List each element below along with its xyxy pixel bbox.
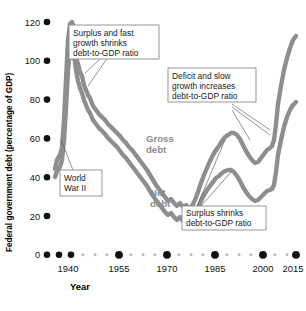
- y-tick-label: 60: [30, 134, 40, 144]
- series-label-net-debt-line2: debt: [150, 198, 171, 209]
- annotation-line-1: World: [64, 173, 86, 183]
- y-tick-dot: [44, 213, 51, 220]
- y-tick-label: 40: [30, 173, 40, 183]
- y-tick-dot: [44, 135, 51, 142]
- x-tick-label: 2015: [283, 263, 304, 274]
- series-label-gross-debt: Gross debt: [146, 133, 174, 155]
- series-label-gross-debt-line2: debt: [146, 144, 167, 155]
- y-tick-dot: [44, 252, 51, 259]
- y-tick-label: 100: [25, 56, 40, 66]
- annotation-deficit-slow-growth: Deficit and slow growth increases debt-t…: [168, 68, 270, 140]
- annotation-surplus-shrinks: Surplus shrinks debt-to-GDP ratio: [182, 140, 266, 230]
- annotation-line-2: growth shrinks: [73, 38, 127, 48]
- y-tick-dot: [44, 96, 51, 103]
- annotation-line-1: Deficit and slow: [172, 71, 232, 81]
- annotation-line-1: Surplus and fast: [73, 28, 134, 38]
- y-tick-dot: [44, 19, 51, 26]
- y-tick-label: 0: [35, 250, 40, 260]
- x-axis-dot-rule: [56, 251, 300, 259]
- x-tick-label: 1970: [157, 263, 178, 274]
- y-tick-dot: [44, 58, 51, 65]
- annotation-line-2: debt-to-GDP ratio: [186, 218, 252, 228]
- annotation-line-2: War II: [64, 183, 86, 193]
- y-tick-label: 120: [25, 18, 40, 28]
- y-tick-label: 20: [30, 212, 40, 222]
- series-label-gross-debt-line1: Gross: [146, 133, 174, 144]
- annotation-line-3: debt-to-GDP ratio: [73, 48, 139, 58]
- x-tick-label: 1985: [205, 263, 226, 274]
- annotation-world-war-two: World War II: [60, 140, 102, 196]
- x-tick-label: 1955: [109, 263, 130, 274]
- chart-canvas: Federal government debt (percentage of G…: [0, 0, 306, 311]
- y-axis-title: Federal government debt (percentage of G…: [5, 72, 14, 252]
- x-axis-title: Year: [70, 281, 90, 292]
- series-label-net-debt-line1: Net: [150, 187, 166, 198]
- annotation-line-2: growth increases: [172, 81, 235, 91]
- series-label-net-debt: Net debt: [150, 187, 171, 209]
- y-tick-dot: [44, 174, 51, 181]
- x-tick-label: 1940: [58, 263, 79, 274]
- x-tick-label: 2000: [253, 263, 274, 274]
- annotation-line-3: debt-to-GDP ratio: [172, 91, 238, 101]
- y-tick-label: 80: [30, 95, 40, 105]
- debt-to-gdp-chart: Federal government debt (percentage of G…: [0, 0, 306, 311]
- annotation-line-1: Surplus shrinks: [186, 208, 243, 218]
